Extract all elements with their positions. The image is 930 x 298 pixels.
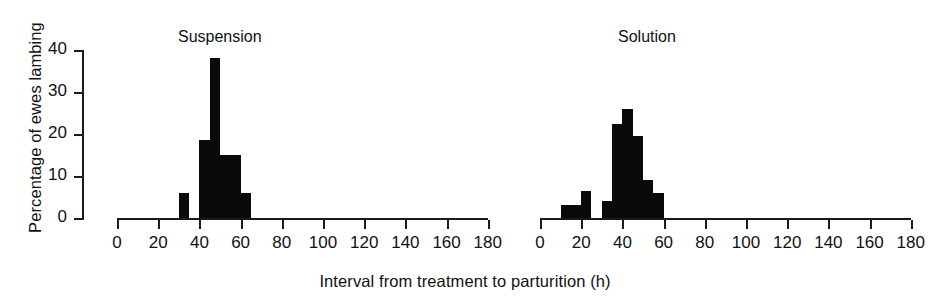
x-tick-label-solution-60: 60	[644, 233, 684, 253]
x-tick-solution-20	[581, 220, 583, 229]
x-tick-label-solution-80: 80	[685, 233, 725, 253]
bar-solution-7	[643, 180, 653, 218]
bar-solution-4	[612, 124, 622, 219]
x-tick-label-solution-0: 0	[520, 233, 560, 253]
x-tick-label-solution-100: 100	[726, 233, 766, 253]
panel-solution: Solution020406080100120140160180	[0, 0, 930, 298]
panel-title-solution: Solution	[618, 28, 676, 46]
plot-area: Suspension020406080100120140160180010203…	[0, 0, 930, 298]
x-axis-line-solution	[540, 218, 911, 220]
x-tick-solution-40	[622, 220, 624, 229]
x-tick-solution-180	[911, 220, 913, 229]
bar-solution-5	[622, 109, 632, 218]
x-tick-label-solution-20: 20	[561, 233, 601, 253]
x-axis-label: Interval from treatment to parturition (…	[0, 272, 930, 291]
x-tick-solution-80	[705, 220, 707, 229]
bar-solution-6	[633, 136, 643, 218]
x-tick-solution-0	[540, 220, 542, 229]
x-tick-label-solution-180: 180	[891, 233, 930, 253]
x-tick-solution-160	[870, 220, 872, 229]
x-tick-solution-140	[828, 220, 830, 229]
bar-solution-3	[602, 201, 612, 218]
histogram-figure: Percentage of ewes lambing Suspension020…	[0, 0, 930, 298]
x-tick-label-solution-40: 40	[602, 233, 642, 253]
bar-solution-8	[653, 193, 663, 218]
x-tick-solution-60	[664, 220, 666, 229]
x-tick-label-solution-160: 160	[850, 233, 890, 253]
x-tick-solution-100	[746, 220, 748, 229]
bar-solution-1	[571, 205, 581, 218]
bar-solution-2	[581, 191, 591, 218]
x-tick-label-solution-140: 140	[808, 233, 848, 253]
bar-solution-0	[561, 205, 571, 218]
x-tick-solution-120	[787, 220, 789, 229]
x-tick-label-solution-120: 120	[767, 233, 807, 253]
